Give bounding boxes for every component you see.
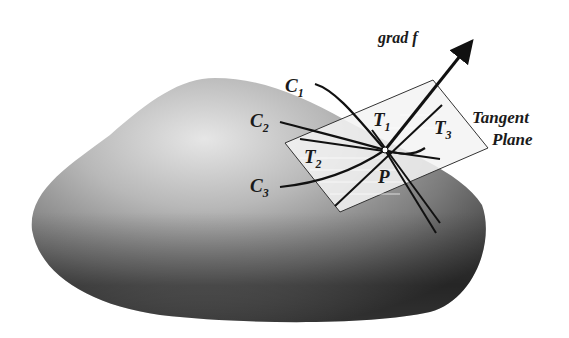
grad-f-label: grad f [377, 29, 419, 47]
tangent-plane-diagram: grad f Tangent Plane C1 C2 C3 T1 T2 T3 P [0, 0, 569, 338]
label-p: P [377, 166, 390, 187]
tangent-plane-label-line1: Tangent [472, 108, 530, 127]
point-p [382, 147, 388, 153]
tangent-plane-label-line2: Plane [491, 130, 533, 149]
